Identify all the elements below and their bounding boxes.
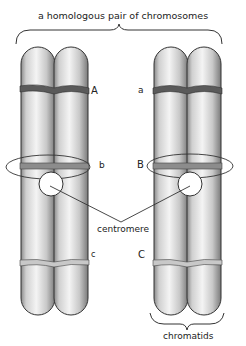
- right-band-middle: [153, 163, 222, 169]
- gene-label-C: C: [138, 250, 145, 260]
- left-centromere: [39, 172, 63, 196]
- chromatids-label: chromatids: [163, 332, 213, 341]
- right-centromere: [178, 172, 202, 196]
- left-band-middle: [20, 163, 89, 169]
- gene-label-B: B: [137, 160, 144, 170]
- homologous-pair-brace: [16, 24, 222, 44]
- gene-label-a: a: [138, 86, 144, 95]
- right-chromosome: [147, 47, 233, 315]
- chromatids-brace: [150, 313, 224, 330]
- centromere-label: centromere: [97, 225, 149, 234]
- diagram-title: a homologous pair of chromosomes: [0, 11, 246, 21]
- gene-label-c: c: [91, 251, 95, 259]
- chromosome-diagram: [0, 0, 246, 346]
- gene-label-b: b: [99, 161, 105, 170]
- gene-label-A: A: [91, 86, 98, 96]
- left-chromosome: [6, 47, 90, 315]
